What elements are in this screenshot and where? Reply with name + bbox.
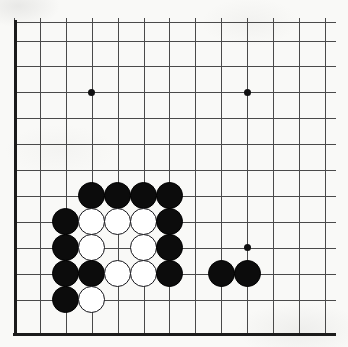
grid-line-vertical-12 [325, 18, 326, 334]
hoshi-upper-right-icon [244, 89, 251, 96]
black-stone-1[interactable] [78, 182, 105, 209]
white-stone-5[interactable] [130, 234, 157, 261]
white-stone-6[interactable] [104, 260, 131, 287]
white-stone-1[interactable] [78, 208, 105, 235]
grid-line-vertical-1 [40, 18, 41, 334]
grid-line-horizontal-2 [14, 66, 336, 67]
grid-line-horizontal-6 [14, 170, 336, 171]
black-stone-8[interactable] [156, 234, 183, 261]
grid-line-horizontal-0 [14, 22, 336, 23]
go-board[interactable] [0, 0, 348, 347]
black-stone-4[interactable] [156, 182, 183, 209]
board-edge-left [14, 20, 17, 335]
white-stone-7[interactable] [130, 260, 157, 287]
grid-line-horizontal-3 [14, 92, 336, 93]
hoshi-upper-left-icon [88, 89, 95, 96]
black-stone-9[interactable] [52, 260, 79, 287]
black-stone-12[interactable] [208, 260, 235, 287]
black-stone-5[interactable] [52, 208, 79, 235]
hoshi-lower-right-icon [244, 244, 251, 251]
grid-line-vertical-11 [299, 18, 300, 334]
black-stone-7[interactable] [52, 234, 79, 261]
grid-line-vertical-10 [273, 18, 274, 334]
grid-line-horizontal-1 [14, 41, 336, 42]
black-stone-14[interactable] [52, 286, 79, 313]
black-stone-6[interactable] [156, 208, 183, 235]
black-stone-2[interactable] [104, 182, 131, 209]
white-stone-3[interactable] [130, 208, 157, 235]
black-stone-10[interactable] [78, 260, 105, 287]
white-stone-4[interactable] [78, 234, 105, 261]
black-stone-11[interactable] [156, 260, 183, 287]
grid-line-vertical-7 [195, 18, 196, 334]
board-edge-bottom [13, 333, 336, 336]
black-stone-13[interactable] [234, 260, 261, 287]
white-stone-2[interactable] [104, 208, 131, 235]
black-stone-3[interactable] [130, 182, 157, 209]
white-stone-8[interactable] [78, 286, 105, 313]
grid-line-horizontal-5 [14, 144, 336, 145]
grid-line-horizontal-4 [14, 118, 336, 119]
